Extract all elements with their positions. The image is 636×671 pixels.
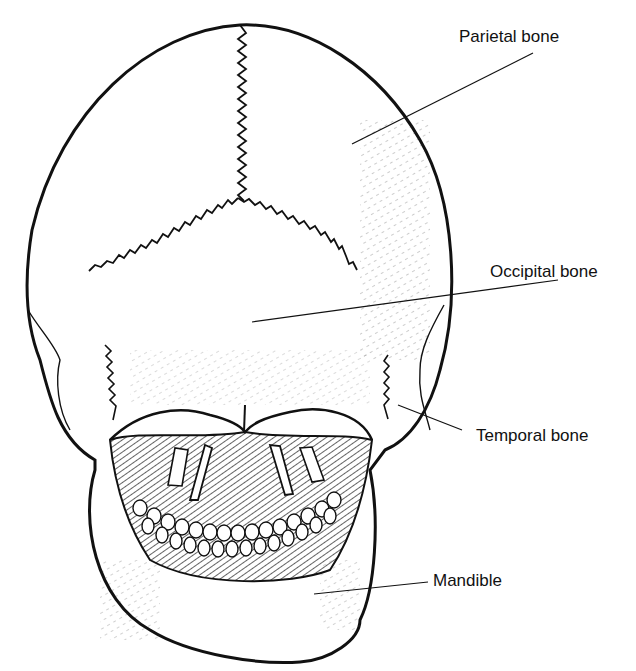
skull-posterior-illustration [0, 0, 636, 671]
label-mandible: Mandible [433, 572, 502, 589]
external-occipital-crest [244, 405, 245, 432]
label-occipital-bone: Occipital bone [490, 263, 598, 280]
shading-mandible-right [320, 560, 360, 630]
label-temporal-bone: Temporal bone [476, 427, 588, 444]
shading-right-parietal [360, 120, 430, 360]
shading-mandible-left [100, 560, 160, 640]
label-parietal-bone: Parietal bone [459, 28, 559, 45]
shading-occipital-lower [130, 350, 370, 405]
